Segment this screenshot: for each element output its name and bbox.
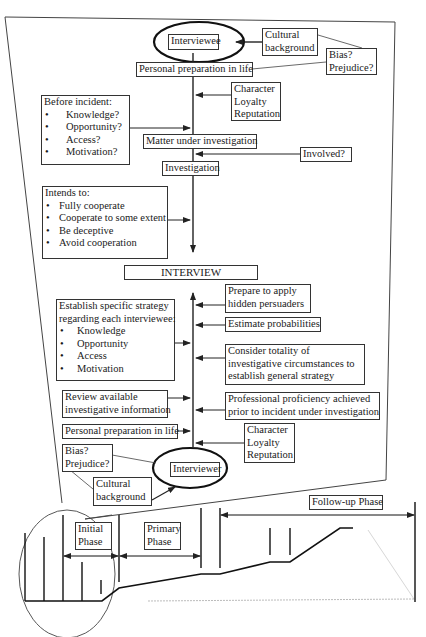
before-incident-title: Before incident: (44, 96, 127, 109)
follow-up-phase-label: Follow-up Phase (312, 496, 383, 507)
character-label: Character (247, 424, 292, 437)
interview-box: INTERVIEW (124, 265, 258, 280)
primary-phase-line2: Phase (147, 536, 178, 549)
list-item: Avoid cooperation (45, 237, 165, 250)
matter-label: Matter under investigation (146, 135, 257, 146)
character-box-top: Character Loyalty Reputation (231, 82, 281, 121)
loyalty-label: Loyalty (247, 437, 292, 450)
estimate-probabilities-label: Estimate probabilities (228, 318, 320, 329)
proficiency-line1: Professional proficiency achieved (228, 393, 377, 406)
interviewer-node: Interviewer (170, 462, 220, 477)
hidden-persuaders-line1: Prepare to apply (228, 285, 308, 298)
strategy-title-line1: Establish specific strategy (59, 300, 172, 313)
strategy-title-line2: regarding each interviewee: (59, 313, 172, 326)
totality-box: Consider totality of investigative circu… (225, 344, 365, 385)
initial-phase-line1: Initial (78, 523, 109, 536)
list-item: Opportunity? (44, 121, 127, 134)
primary-phase-box: Primary Phase (144, 522, 181, 550)
intends-to-list: Fully cooperate Cooperate to some extent… (45, 200, 165, 250)
list-item: Motivation? (44, 146, 127, 159)
proficiency-line2: prior to incident under investigation (228, 406, 377, 419)
intends-to-title: Intends to: (45, 187, 165, 200)
strategy-box: Establish specific strategy regarding ea… (56, 299, 175, 381)
estimate-probabilities-box: Estimate probabilities (225, 317, 321, 332)
list-item: Access (59, 350, 172, 363)
list-item: Opportunity (59, 338, 172, 351)
strategy-list: Knowledge Opportunity Access Motivation (59, 325, 172, 375)
bias-box-bottom: Bias? Prejudice? (62, 444, 113, 472)
personal-preparation-box-bottom: Personal preparation in life (62, 424, 178, 439)
list-item: Knowledge? (44, 109, 127, 122)
loyalty-label: Loyalty (234, 96, 278, 109)
totality-line2: investigative circumstances to (228, 358, 362, 371)
interviewee-node: Interviewee (168, 34, 219, 50)
review-information-box: Review available investigative informati… (62, 390, 168, 418)
review-line1: Review available (65, 391, 165, 404)
hidden-persuaders-box: Prepare to apply hidden persuaders (225, 284, 311, 313)
primary-phase-line1: Primary (147, 523, 178, 536)
character-label: Character (234, 83, 278, 96)
initial-phase-line2: Phase (78, 536, 109, 549)
cultural-background-box-bottom: Cultural background (93, 477, 152, 506)
reputation-label: Reputation (247, 449, 292, 462)
totality-line3: establish general strategy (228, 370, 362, 383)
list-item: Motivation (59, 363, 172, 376)
bias-label: Bias? (65, 445, 110, 458)
list-item: Access? (44, 134, 127, 147)
bias-label: Bias? (329, 49, 374, 62)
cultural-label-line1: Cultural (96, 478, 149, 491)
bias-box-top: Bias? Prejudice? (326, 48, 377, 75)
personal-preparation-label: Personal preparation in life (139, 63, 253, 74)
follow-up-phase-box: Follow-up Phase (309, 495, 383, 510)
personal-preparation-label: Personal preparation in life (65, 425, 179, 436)
reputation-label: Reputation (234, 108, 278, 121)
initial-phase-box: Initial Phase (75, 522, 112, 550)
interviewee-label: Interviewee (171, 35, 221, 46)
character-box-bottom: Character Loyalty Reputation (244, 423, 295, 463)
totality-line1: Consider totality of (228, 345, 362, 358)
involved-box: Involved? (300, 147, 352, 162)
review-line2: investigative information (65, 404, 165, 417)
list-item: Be deceptive (45, 225, 165, 238)
before-incident-box: Before incident: Knowledge? Opportunity?… (41, 95, 130, 165)
list-item: Knowledge (59, 325, 172, 338)
interviewer-label: Interviewer (173, 463, 221, 474)
involved-label: Involved? (303, 148, 345, 159)
before-incident-list: Knowledge? Opportunity? Access? Motivati… (44, 109, 127, 159)
list-item: Fully cooperate (45, 200, 165, 213)
matter-under-investigation-box: Matter under investigation (143, 134, 257, 149)
investigation-box: Investigation (162, 161, 219, 176)
cultural-background-box-top: Cultural background (262, 28, 318, 56)
proficiency-box: Professional proficiency achieved prior … (225, 392, 380, 420)
cultural-label-line1: Cultural (265, 29, 315, 42)
interview-label: INTERVIEW (161, 266, 221, 278)
intends-to-box: Intends to: Fully cooperate Cooperate to… (42, 186, 168, 259)
list-item: Cooperate to some extent (45, 212, 165, 225)
investigation-label: Investigation (165, 162, 220, 173)
cultural-label-line2: background (265, 42, 315, 55)
prejudice-label: Prejudice? (329, 62, 374, 75)
personal-preparation-box-top: Personal preparation in life (136, 62, 253, 77)
cultural-label-line2: background (96, 491, 149, 504)
prejudice-label: Prejudice? (65, 458, 110, 471)
hidden-persuaders-line2: hidden persuaders (228, 298, 308, 311)
